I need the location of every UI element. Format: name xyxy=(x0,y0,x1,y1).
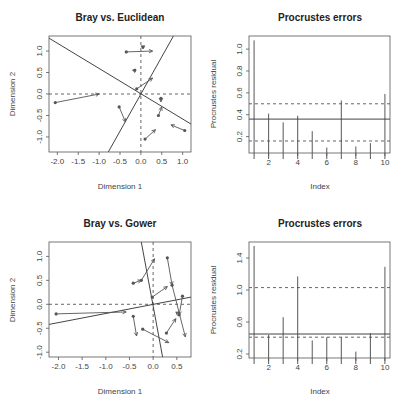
y-axis-label: Dimension 2 xyxy=(8,71,17,116)
data-point xyxy=(135,87,138,90)
x-tick-label: -2.0 xyxy=(52,362,66,371)
panel-procrustes-errors-1: Procrustes errors 2468100.20.40.60.81.0 … xyxy=(209,12,390,191)
x-tick-label: 8 xyxy=(354,363,359,372)
y-axis-label: Dimension 2 xyxy=(8,277,17,322)
x-tick-label: 0.5 xyxy=(171,362,183,371)
y-tick-label: 0.2 xyxy=(235,130,244,142)
panel-procrustes-errors-2: Procrustes errors 2468100.20.61.01.4 Ind… xyxy=(209,218,390,396)
x-axis-label: Dimension 1 xyxy=(98,182,143,191)
data-point xyxy=(165,331,168,334)
x-tick-label: 2 xyxy=(266,158,271,167)
y-tick-label: 1.0 xyxy=(35,45,44,57)
chart-title: Bray vs. Gower xyxy=(84,218,157,229)
y-axis-label: Procrustes residual xyxy=(209,60,218,129)
data-point xyxy=(178,313,181,316)
y-tick-label: -1.0 xyxy=(35,130,44,144)
procrustes-arrow xyxy=(56,312,126,314)
y-tick-label: 0.6 xyxy=(235,316,244,328)
chart-title: Procrustes errors xyxy=(278,12,362,23)
x-tick-label: -1.5 xyxy=(71,157,85,166)
y-tick-label: 1.0 xyxy=(235,284,244,296)
x-tick-label: -1.0 xyxy=(92,157,106,166)
procrustes-arrow xyxy=(172,285,185,337)
y-tick-label: -0.5 xyxy=(35,108,44,122)
x-tick-label: 10 xyxy=(380,363,389,372)
data-point xyxy=(166,256,169,259)
x-tick-label: 0.5 xyxy=(156,157,168,166)
data-point xyxy=(143,138,146,141)
procrustes-arrow xyxy=(126,51,152,52)
x-tick-label: 8 xyxy=(354,158,359,167)
x-tick-label: 4 xyxy=(295,363,300,372)
x-tick-label: 4 xyxy=(295,158,300,167)
chart-title: Procrustes errors xyxy=(278,218,362,229)
procrustes-arrow xyxy=(167,258,172,285)
x-tick-label: 0.0 xyxy=(135,157,147,166)
chart-title: Bray vs. Euclidean xyxy=(76,12,165,23)
y-tick-label: 0.2 xyxy=(235,348,244,360)
x-tick-label: 6 xyxy=(325,158,330,167)
data-point xyxy=(132,315,135,318)
x-tick-label: 0.0 xyxy=(148,362,160,371)
y-tick-label: 0.0 xyxy=(35,88,44,100)
plot-frame xyxy=(249,242,390,358)
data-point xyxy=(183,129,186,132)
data-point xyxy=(141,328,144,331)
plot-frame xyxy=(249,36,390,153)
y-axis-label: Procrustes residual xyxy=(209,266,218,335)
y-tick-label: -1.0 xyxy=(35,345,44,359)
y-tick-label: 0.8 xyxy=(235,65,244,77)
x-axis-label: Index xyxy=(310,182,330,191)
plot-area: -2.0-1.5-1.0-0.50.00.5-1.0-0.50.00.51.0 xyxy=(35,242,191,371)
x-tick-label: -0.5 xyxy=(123,362,137,371)
plot-content xyxy=(249,288,390,338)
x-tick-label: 10 xyxy=(380,158,389,167)
data-point xyxy=(140,279,143,282)
y-tick-label: -0.5 xyxy=(35,321,44,335)
data-point xyxy=(54,101,57,104)
data-point xyxy=(55,312,58,315)
panel-bray-euclidean: Bray vs. Euclidean -2.0-1.5-1.0-0.50.00.… xyxy=(8,12,191,191)
panel-bray-gower: Bray vs. Gower -2.0-1.5-1.0-0.50.00.5-1.… xyxy=(8,218,191,396)
procrustes-arrow xyxy=(145,130,155,139)
plot-content xyxy=(49,242,191,357)
x-tick-label: -0.5 xyxy=(113,157,127,166)
x-tick-label: -2.0 xyxy=(50,157,64,166)
x-tick-label: -1.5 xyxy=(75,362,89,371)
procrustes-arrow xyxy=(143,329,169,342)
x-tick-label: -1.0 xyxy=(99,362,113,371)
x-axis-label: Index xyxy=(310,387,330,396)
procrustes-arrow xyxy=(166,319,175,333)
y-tick-label: 1.0 xyxy=(235,43,244,55)
data-point xyxy=(132,282,135,285)
plot-frame xyxy=(49,242,191,357)
data-point xyxy=(181,295,184,298)
x-axis-label: Dimension 1 xyxy=(98,387,143,396)
plot-area: -2.0-1.5-1.0-0.50.00.51.0-1.0-0.50.00.51… xyxy=(35,36,191,166)
rotation-axis-line xyxy=(141,242,162,357)
procrustes-arrow xyxy=(55,94,99,103)
x-tick-label: 2 xyxy=(266,363,271,372)
data-point xyxy=(151,296,154,299)
plot-content xyxy=(49,36,191,152)
rotation-axis-line xyxy=(49,38,191,124)
y-tick-label: 0.5 xyxy=(35,274,44,286)
y-tick-label: 0.6 xyxy=(235,87,244,99)
plot-content xyxy=(249,104,390,141)
y-tick-label: 0.5 xyxy=(35,66,44,78)
figure: Bray vs. Euclidean -2.0-1.5-1.0-0.50.00.… xyxy=(0,0,405,411)
plot-area: 2468100.20.61.01.4 xyxy=(235,246,390,372)
data-point xyxy=(157,114,160,117)
y-tick-label: 0.0 xyxy=(35,298,44,310)
data-point xyxy=(125,50,128,53)
x-tick-label: 6 xyxy=(325,363,330,372)
data-point xyxy=(170,284,173,287)
y-tick-label: 0.4 xyxy=(235,109,244,121)
plot-area: 2468100.20.40.60.81.0 xyxy=(235,40,390,167)
data-point xyxy=(118,105,121,108)
y-tick-label: 1.4 xyxy=(235,252,244,264)
y-tick-label: 1.0 xyxy=(35,250,44,262)
rotation-axis-line xyxy=(49,297,191,324)
procrustes-arrow xyxy=(152,287,167,298)
x-tick-label: 1.0 xyxy=(177,157,189,166)
